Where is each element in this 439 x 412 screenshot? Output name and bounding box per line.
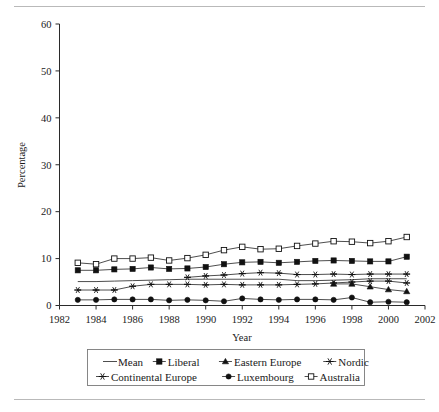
marker-5-17: [386, 299, 391, 304]
marker-6-13: [313, 241, 318, 246]
legend-label: Liberal: [168, 356, 200, 368]
marker-5-2: [112, 297, 117, 302]
marker-6-1: [93, 262, 98, 267]
marker-1-3: [130, 266, 135, 271]
x-tick-label-2002: 2002: [415, 314, 436, 325]
marker-1-6: [185, 266, 190, 271]
marker-1-4: [148, 265, 153, 270]
marker-4-12: [294, 281, 301, 287]
marker-6-7: [203, 252, 208, 257]
y-tick-label-0: 0: [46, 300, 51, 311]
marker-3-9: [349, 272, 356, 278]
y-tick-label-60: 60: [41, 19, 52, 30]
legend-item-continental-europe[interactable]: Continental Europe: [96, 371, 197, 383]
marker-4-4: [148, 281, 155, 287]
marker-4-6: [184, 281, 191, 287]
legend-swatch-marker: [308, 374, 313, 379]
marker-6-15: [349, 239, 354, 244]
marker-6-14: [331, 239, 336, 244]
marker-5-18: [404, 300, 409, 305]
series-liberal: [75, 254, 409, 273]
marker-5-6: [185, 297, 190, 302]
marker-5-4: [148, 297, 153, 302]
marker-1-18: [404, 254, 409, 259]
marker-3-2: [221, 272, 228, 278]
marker-6-10: [258, 247, 263, 252]
marker-3-1: [202, 273, 209, 279]
marker-5-13: [313, 297, 318, 302]
marker-1-10: [258, 259, 263, 264]
marker-1-12: [294, 259, 299, 264]
series-line-0: [78, 279, 407, 282]
marker-6-18: [404, 234, 409, 239]
marker-5-1: [93, 297, 98, 302]
x-tick-label-1990: 1990: [195, 314, 216, 325]
marker-5-14: [331, 297, 336, 302]
marker-4-0: [74, 287, 81, 293]
marker-3-10: [367, 271, 374, 277]
legend-label: Australia: [320, 371, 360, 383]
marker-4-5: [166, 281, 173, 287]
x-tick-label-2000: 2000: [378, 314, 399, 325]
marker-1-2: [112, 267, 117, 272]
x-tick-label-1996: 1996: [305, 314, 326, 325]
marker-4-10: [257, 282, 264, 288]
marker-3-11: [385, 271, 392, 277]
y-tick-label-40: 40: [41, 113, 52, 124]
chart-legend: MeanLiberalEastern EuropeNordicContinent…: [88, 350, 369, 386]
marker-6-3: [130, 256, 135, 261]
marker-3-8: [330, 271, 337, 277]
y-tick-label-50: 50: [41, 66, 52, 77]
legend-label: Luxembourg: [237, 371, 294, 383]
marker-3-12: [403, 271, 410, 277]
marker-1-0: [75, 268, 80, 273]
marker-6-0: [75, 260, 80, 265]
series-luxembourg: [75, 295, 409, 305]
marker-5-5: [167, 298, 172, 303]
marker-4-18: [403, 280, 410, 286]
marker-3-3: [239, 271, 246, 277]
y-axis-label: Percentage: [16, 142, 27, 188]
y-tick-label-20: 20: [41, 206, 52, 217]
x-tick-label-1982: 1982: [49, 314, 70, 325]
x-tick-label-1992: 1992: [232, 314, 253, 325]
marker-5-11: [276, 297, 281, 302]
legend-label: Mean: [118, 356, 144, 368]
marker-5-7: [203, 298, 208, 303]
marker-3-6: [294, 272, 301, 278]
marker-6-5: [166, 258, 171, 263]
x-tick-label-1988: 1988: [159, 314, 180, 325]
x-axis-ticks: 1982198419861988199019921994199619982000…: [49, 306, 436, 325]
marker-4-11: [275, 282, 282, 288]
marker-1-17: [386, 259, 391, 264]
marker-4-8: [221, 281, 228, 287]
line-chart: 0102030405060 19821984198619881990199219…: [0, 0, 439, 412]
legend-label: Eastern Europe: [234, 356, 302, 368]
x-tick-label-1998: 1998: [341, 314, 362, 325]
marker-5-3: [130, 297, 135, 302]
marker-4-1: [93, 287, 100, 293]
marker-1-8: [221, 262, 226, 267]
x-tick-label-1984: 1984: [86, 314, 108, 325]
marker-4-3: [129, 283, 136, 289]
marker-6-12: [294, 243, 299, 248]
series-mean: [78, 279, 407, 282]
marker-6-2: [112, 256, 117, 261]
marker-5-12: [294, 297, 299, 302]
marker-1-1: [93, 268, 98, 273]
marker-6-17: [386, 239, 391, 244]
legend-label: Continental Europe: [111, 371, 197, 383]
marker-6-8: [221, 247, 226, 252]
marker-1-9: [240, 260, 245, 265]
marker-4-13: [312, 281, 319, 287]
marker-6-9: [240, 244, 245, 249]
marker-1-14: [331, 258, 336, 263]
marker-6-4: [148, 255, 153, 260]
y-axis-ticks: 0102030405060: [41, 19, 60, 312]
x-tick-label-1986: 1986: [122, 314, 143, 325]
marker-3-7: [312, 272, 319, 278]
marker-1-7: [203, 264, 208, 269]
legend-swatch-marker: [157, 359, 162, 364]
marker-5-10: [258, 297, 263, 302]
marker-3-5: [275, 270, 282, 276]
